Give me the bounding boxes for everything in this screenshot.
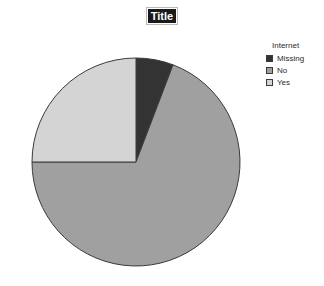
- legend-label-yes: Yes: [277, 78, 290, 87]
- legend-label-no: No: [277, 66, 287, 75]
- chart-title-container: Title: [0, 6, 324, 24]
- pie-slice-group: [32, 58, 240, 266]
- legend-swatch-no: [266, 67, 273, 74]
- pie-svg: [30, 56, 242, 268]
- chart-canvas: Title Internet Missing No Yes: [0, 0, 324, 286]
- legend-title: Internet: [272, 41, 322, 51]
- pie-chart[interactable]: [30, 56, 242, 268]
- chart-title[interactable]: Title: [148, 9, 176, 23]
- pie-slice-yes[interactable]: [32, 58, 136, 162]
- legend-item-no[interactable]: No: [266, 65, 322, 76]
- legend-swatch-yes: [266, 79, 273, 86]
- legend-item-yes[interactable]: Yes: [266, 77, 322, 88]
- legend: Internet Missing No Yes: [266, 41, 322, 89]
- legend-label-missing: Missing: [277, 54, 304, 63]
- legend-item-missing[interactable]: Missing: [266, 53, 322, 64]
- legend-swatch-missing: [266, 55, 273, 62]
